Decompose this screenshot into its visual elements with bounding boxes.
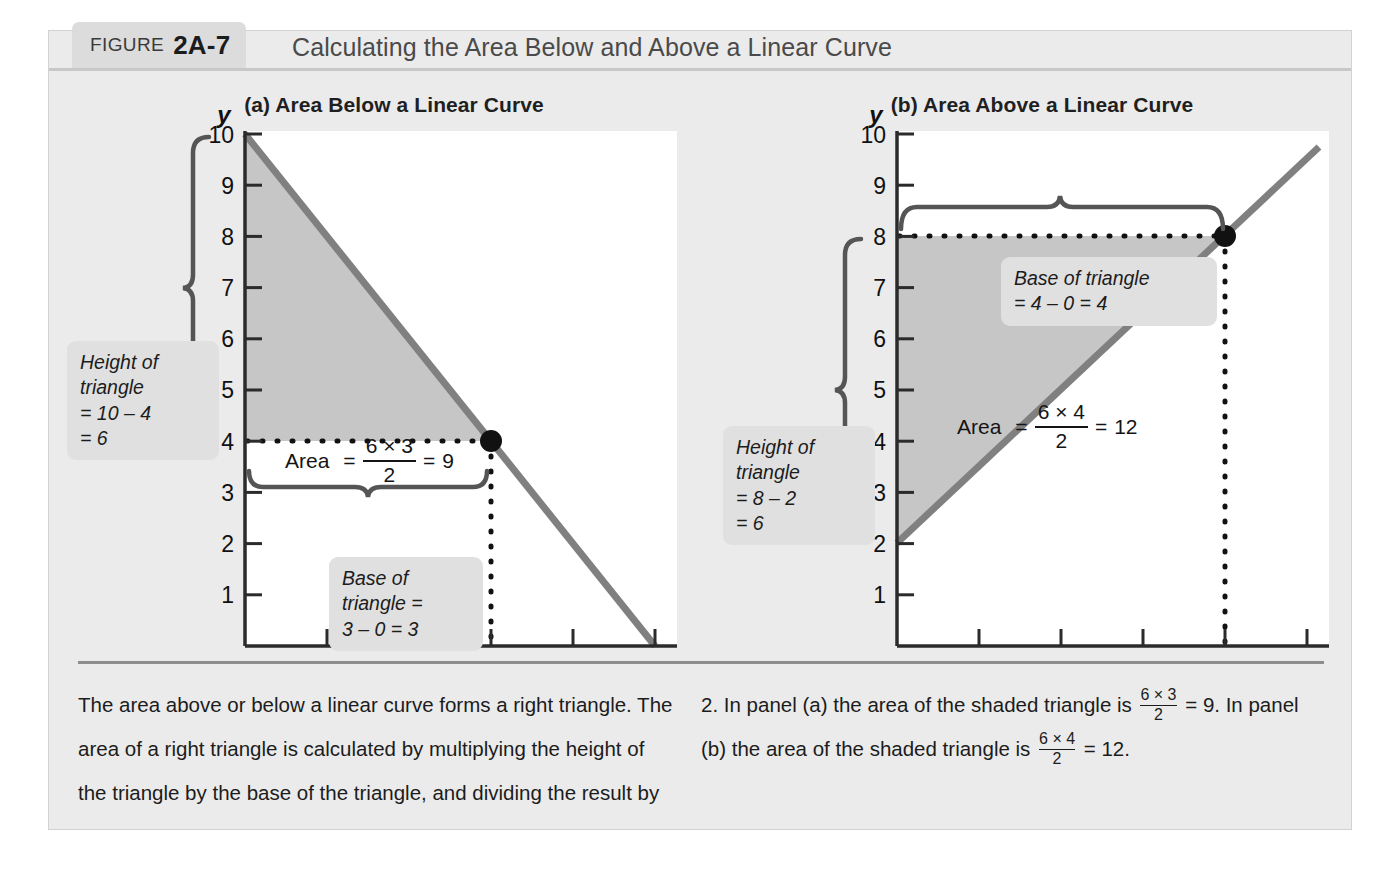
figure-label: FIGURE: [90, 34, 164, 56]
figure-frame: FIGURE 2A-7 Calculating the Area Below a…: [48, 30, 1352, 830]
svg-text:1: 1: [221, 582, 234, 608]
height-callout-a: Height of triangle = 10 – 4 = 6: [67, 341, 219, 460]
area-label-a: Area: [285, 449, 329, 473]
area-result-a: 9: [442, 449, 454, 473]
svg-text:7: 7: [221, 275, 234, 301]
figure-title: Calculating the Area Below and Above a L…: [292, 33, 892, 62]
svg-text:5: 5: [221, 377, 234, 403]
panel-b: (b) Area Above a Linear Curve: [701, 79, 1353, 654]
figure-page: FIGURE 2A-7 Calculating the Area Below a…: [0, 0, 1399, 880]
svg-text:4: 4: [873, 429, 886, 455]
panel-a: (a) Area Below a Linear Curve: [49, 79, 701, 654]
panels-container: (a) Area Below a Linear Curve: [49, 79, 1351, 654]
panel-b-svg: y x 1 2 3 4 5 6 7 8 9 10: [701, 79, 1353, 654]
svg-text:2: 2: [221, 531, 234, 557]
area-fraction-a: 6 × 3 2: [363, 435, 416, 486]
area-numerator-b: 6 × 4: [1035, 401, 1088, 424]
area-result-equals-a: =: [423, 449, 435, 473]
area-formula-a: Area = 6 × 3 2 = 9: [285, 435, 454, 486]
area-numerator-a: 6 × 3: [363, 435, 416, 458]
fraction-bar-a: [363, 460, 416, 462]
svg-text:10: 10: [208, 122, 234, 148]
body-right-fraction-2: 6 × 4 2: [1039, 731, 1075, 768]
area-label-b: Area: [957, 415, 1001, 439]
body-right-frac2-denominator: 2: [1053, 751, 1062, 768]
svg-text:1: 1: [873, 582, 886, 608]
figure-number-tab: FIGURE 2A-7: [72, 22, 246, 68]
body-right-frac1-denominator: 2: [1154, 707, 1163, 724]
svg-text:9: 9: [221, 173, 234, 199]
area-formula-b: Area = 6 × 4 2 = 12: [957, 401, 1138, 452]
svg-text:6: 6: [873, 326, 886, 352]
figure-number: 2A-7: [173, 30, 230, 61]
svg-text:7: 7: [873, 275, 886, 301]
marker-point-a: [480, 430, 502, 452]
fraction-bar-b: [1035, 426, 1088, 428]
svg-text:4: 4: [221, 429, 234, 455]
area-denominator-a: 2: [380, 464, 398, 487]
body-right-frac2-numerator: 6 × 4: [1039, 731, 1075, 748]
svg-text:8: 8: [221, 224, 234, 250]
svg-text:6: 6: [221, 326, 234, 352]
svg-text:3: 3: [873, 480, 886, 506]
panel-b-plot: y x 1 2 3 4 5 6 7 8 9 10: [701, 79, 1353, 654]
body-right-segment-1: 2. In panel (a) the area of the shaded t…: [701, 693, 1132, 716]
height-callout-b: Height of triangle = 8 – 2 = 6: [723, 426, 875, 545]
svg-text:5: 5: [873, 377, 886, 403]
body-right-fraction-1: 6 × 3 2: [1140, 687, 1176, 724]
base-callout-b: Base of triangle = 4 – 0 = 4: [1001, 257, 1217, 326]
svg-text:10: 10: [860, 122, 886, 148]
area-equals-b: =: [1015, 415, 1027, 439]
svg-text:9: 9: [873, 173, 886, 199]
area-fraction-b: 6 × 4 2: [1035, 401, 1088, 452]
area-denominator-b: 2: [1052, 430, 1070, 453]
svg-text:8: 8: [873, 224, 886, 250]
figure-header: FIGURE 2A-7 Calculating the Area Below a…: [49, 31, 1351, 79]
body-divider: [78, 661, 1324, 664]
svg-text:3: 3: [221, 480, 234, 506]
area-result-equals-b: =: [1095, 415, 1107, 439]
area-equals-a: =: [343, 449, 355, 473]
svg-text:2: 2: [873, 531, 886, 557]
body-right-frac1-numerator: 6 × 3: [1140, 687, 1176, 704]
area-result-b: 12: [1114, 415, 1137, 439]
body-text-left: The area above or below a linear curve f…: [78, 683, 678, 815]
body-right-segment-3: = 12.: [1084, 737, 1130, 760]
base-callout-a: Base of triangle = 3 – 0 = 3: [329, 557, 483, 651]
header-divider: [49, 68, 1351, 71]
body-text-right: 2. In panel (a) the area of the shaded t…: [701, 683, 1321, 771]
